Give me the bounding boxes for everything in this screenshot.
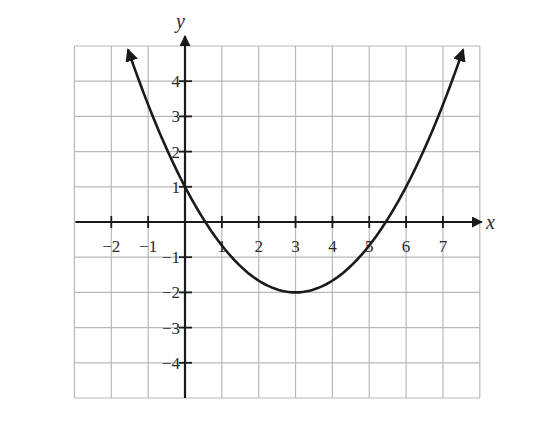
x-tick-label: 7 [439,237,448,256]
x-tick-label: 2 [254,237,263,256]
y-tick-label: 4 [172,72,181,91]
x-tick-label: −2 [102,237,120,256]
x-tick-labels: −2−11234567 [102,237,447,256]
y-tick-label: −2 [162,283,180,302]
x-tick-label: −1 [139,237,157,256]
x-tick-label: 3 [291,237,300,256]
y-axis-label: y [174,10,185,33]
y-tick-label: 2 [172,143,181,162]
axes [75,36,481,398]
y-tick-label: 3 [172,107,181,126]
y-tick-label: −4 [162,354,181,373]
x-tick-label: 4 [328,237,337,256]
y-tick-label: −1 [162,248,180,267]
x-axis-label: x [485,211,495,233]
y-tick-label: 1 [172,178,181,197]
x-tick-label: 6 [402,237,411,256]
y-tick-label: −3 [162,319,180,338]
parabola-graph: −2−11234567 4321−1−2−3−4 x y [0,0,533,429]
